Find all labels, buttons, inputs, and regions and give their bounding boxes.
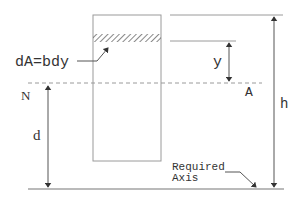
d-label: d <box>33 127 41 143</box>
element-label: dA=bdy <box>15 54 69 71</box>
y-label: y <box>213 54 222 71</box>
h-label: h <box>280 96 288 112</box>
neutral-axis-label-a: A <box>245 85 253 100</box>
neutral-axis-label-n: N <box>21 88 31 103</box>
parallel-axis-diagram: dA=bdy y N A d h Required Axis <box>0 0 301 204</box>
required-axis-label-line2: Axis <box>172 172 198 184</box>
required-axis-leader <box>225 172 256 187</box>
hatched-strip <box>93 34 161 42</box>
